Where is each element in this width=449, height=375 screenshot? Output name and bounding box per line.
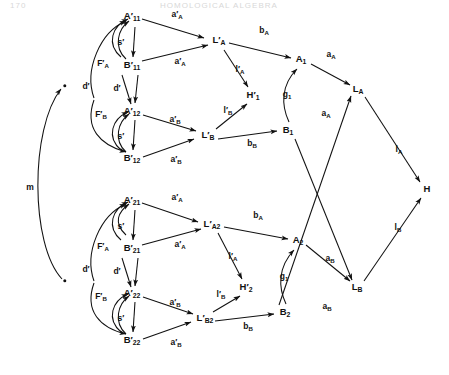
commutative-diagram: A′11 B′11 A′12 B′12 L′A L′B H′1 A1 B1 A′… [0,0,449,375]
edge-Ap12-Bp12-s [133,120,135,150]
edge-label-FA-bot: F′A [97,242,109,252]
node-B2: B2 [280,307,291,319]
edge-Ap21-LpA2 [142,203,198,222]
node-Bp12: B′12 [124,153,141,165]
edge-label-aA-top-2: a′A [174,57,185,67]
node-Hp2: H′2 [240,282,253,294]
node-LpB1: L′B [201,130,214,142]
edge-label-bB-bot: bB [243,322,253,332]
edge-label-FB-bot: F′B [95,292,107,302]
node-LpA2: L′A2 [204,219,221,231]
edge-Bp11-Ap12-d2 [135,75,138,103]
edge-label-aB-right-1: aB [325,254,334,264]
node-Ap11: A′11 [124,11,140,23]
edge-LpA1-A1 [229,43,291,58]
node-Hp1: H′1 [247,90,260,102]
edge-label-s-top-1: s′ [118,38,125,47]
edge-label-s-top-2: s′ [118,132,125,141]
edge-Bp22-LpB2 [143,322,191,339]
node-LB: LB [352,282,363,294]
node-B1: B1 [283,125,294,137]
edge-label-aA-right-1: aA [326,50,335,60]
edge-label-aA-top-1: a′A [171,10,182,20]
edge-label-FA-top: F′A [97,59,109,69]
figure-page: 170 HOMOLOGICAL ALGEBRA [0,0,449,375]
diagram-edges [0,0,449,375]
edge-label-lA-right: lA [396,145,403,155]
node-H: H [424,184,431,194]
edge-label-s-bot-1: s′ [118,222,125,231]
edge-group-top-left [91,19,208,157]
edge-label-FB-top: F′B [95,110,107,120]
edge-m [38,89,62,279]
node-LpB2: L′B2 [197,313,214,325]
edge-Ap22-Bp22-s [133,302,135,332]
node-Bp22: B′22 [124,335,141,347]
edge-label-bA-top: bA [259,26,269,36]
edge-label-aB-top-2: a′B [170,155,181,165]
edge-LB-H [364,198,421,281]
edge-label-d-top-2: d′ [113,84,120,93]
node-Bp21: B′21 [124,243,141,255]
edge-Bp11-Ap12-d [122,75,131,104]
node-A2: A2 [293,235,304,247]
edge-label-lA-top: l′A [236,65,245,75]
edge-label-aA-right-2: aA [321,109,330,119]
edge-group-m [38,89,62,279]
edge-Bp21-LpA2 [142,229,201,245]
edge-label-lA-bot: l′A [229,252,238,262]
edge-group-top-right [279,64,420,305]
node-Ap12: A′12 [124,106,141,118]
edge-group-bot-left [91,202,201,339]
edge-label-bB-top: bB [247,139,257,149]
edge-Ap11-Bp11-s [133,27,135,57]
edge-LpA2-A2 [224,227,288,239]
node-Ap21: A′21 [124,195,141,207]
edge-Ap22-LpB2 [143,297,193,314]
edge-label-d-top-1: d′ [82,82,89,91]
edge-LpB2-B2 [215,314,274,321]
node-LA: LA [353,84,364,96]
edge-label-aA-bot-2: a′A [174,240,185,250]
edge-A1-LA [311,64,350,85]
edge-label-lB-right: lB [395,223,402,233]
node-Ap22: A′22 [124,288,141,300]
edge-label-aB-bot-2: a′B [170,338,181,348]
edge-label-bA-bot: bA [253,211,263,221]
edge-label-s-bot-2: s′ [118,314,125,323]
edge-Ap21-Bp21-s [133,210,135,240]
node-A1: A1 [296,54,307,66]
edge-label-aA-bot-1: a′A [171,193,182,203]
edge-label-m: m [26,183,34,192]
edge-Bp21-Ap22-d2 [135,258,138,286]
edge-label-g1-bot: g1 [280,272,289,282]
edge-label-d-bot-2: d′ [113,267,120,276]
edge-Ap11-LpA1 [142,19,204,38]
edge-label-lB-bot: l′B [217,290,226,300]
edge-label-aB-top-1: a′B [169,115,180,125]
edge-Bp21-Ap22-d [122,258,131,287]
edge-LA-H [365,97,420,182]
edge-label-d-bot-1: d′ [82,265,89,274]
edge-Bp12-LpB1 [143,139,194,157]
edge-label-g1-top: g1 [283,90,292,100]
edge-label-aB-bot-1: a′B [169,298,180,308]
node-Bp11: B′11 [124,60,140,72]
edge-label-aB-right-2: aB [322,302,331,312]
node-LpA1: L′A [212,35,225,47]
edge-group-bot-right [295,139,421,281]
edge-label-lB-top: l′B [224,106,233,116]
